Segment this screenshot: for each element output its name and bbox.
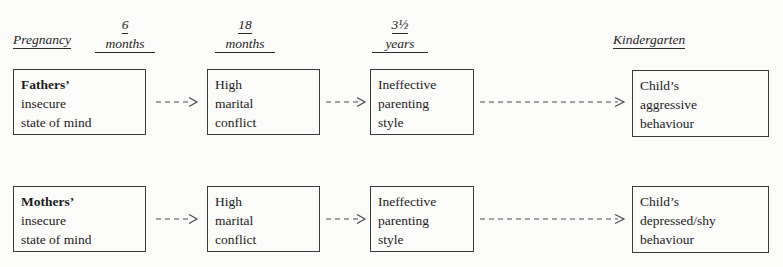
node-mothers-parenting-style: Ineffective parenting style [370, 186, 474, 252]
node-line: Ineffective [378, 75, 473, 94]
node-line: marital [215, 94, 319, 113]
node-line: High [215, 192, 319, 211]
node-line: Child’s [640, 192, 768, 211]
node-line: Child’s [640, 76, 768, 95]
node-line: state of mind [21, 113, 145, 132]
arrow-fathers-state-to-conflict [156, 96, 204, 108]
column-header-three-and-half-years-unit: years [372, 36, 428, 53]
column-header-eighteen-months-unit: months [215, 36, 275, 53]
node-line: conflict [215, 113, 319, 132]
column-header-three-and-half-years-number: 3½ [392, 17, 409, 34]
node-line: state of mind [21, 230, 145, 249]
node-line: Mothers’ [21, 192, 145, 211]
node-line: insecure [21, 94, 145, 113]
node-line: Ineffective [378, 192, 473, 211]
arrow-fathers-conflict-to-parenting [326, 96, 372, 108]
arrow-mothers-conflict-to-parenting [326, 213, 372, 225]
node-line: aggressive [640, 95, 768, 114]
node-line: depressed/shy [640, 211, 768, 230]
node-line: Fathers’ [21, 75, 145, 94]
node-line: conflict [215, 230, 319, 249]
node-line: behaviour [640, 230, 768, 249]
arrow-mothers-state-to-conflict [156, 213, 204, 225]
node-mothers-marital-conflict: High marital conflict [207, 186, 320, 252]
node-line: style [378, 113, 473, 132]
node-fathers-state-of-mind: Fathers’ insecure state of mind [13, 69, 146, 135]
pathway-diagram: Pregnancy 6 months 18 months 3½ years Ki… [0, 0, 783, 267]
node-line: parenting [378, 211, 473, 230]
node-fathers-marital-conflict: High marital conflict [207, 69, 320, 135]
arrow-mothers-parenting-to-child [480, 213, 630, 225]
node-child-aggressive-behaviour: Child’s aggressive behaviour [632, 70, 769, 137]
column-header-kindergarten-label: Kindergarten [613, 32, 685, 49]
node-child-depressed-shy-behaviour: Child’s depressed/shy behaviour [632, 186, 769, 253]
column-header-six-months: 6 months [95, 17, 155, 53]
column-header-eighteen-months-number: 18 [238, 17, 252, 34]
column-header-eighteen-months: 18 months [215, 17, 275, 53]
node-line: behaviour [640, 114, 768, 133]
column-header-kindergarten: Kindergarten [613, 32, 685, 49]
column-header-pregnancy: Pregnancy [13, 32, 71, 49]
node-fathers-parenting-style: Ineffective parenting style [370, 69, 474, 135]
node-line: High [215, 75, 319, 94]
column-header-pregnancy-label: Pregnancy [13, 32, 71, 49]
node-line: parenting [378, 94, 473, 113]
arrow-fathers-parenting-to-child [480, 96, 630, 108]
node-line: insecure [21, 211, 145, 230]
node-line: style [378, 230, 473, 249]
node-mothers-state-of-mind: Mothers’ insecure state of mind [13, 186, 146, 252]
column-header-six-months-unit: months [95, 36, 155, 53]
column-header-three-and-half-years: 3½ years [372, 17, 428, 53]
column-header-six-months-number: 6 [122, 17, 129, 34]
node-line: marital [215, 211, 319, 230]
